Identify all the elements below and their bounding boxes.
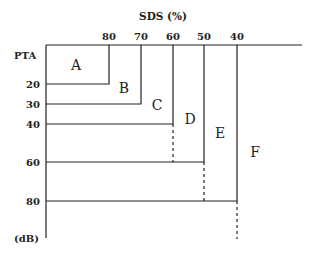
sds-tick-80: 80	[102, 31, 116, 42]
sds-tick-70: 70	[134, 31, 148, 42]
y-unit-label: (dB)	[14, 233, 39, 244]
region-label-a: A	[70, 57, 82, 73]
sds-tick-50: 50	[197, 31, 211, 42]
pta-tick-60: 60	[26, 157, 40, 168]
region-label-e: E	[215, 125, 225, 141]
x-axis-title: SDS (%)	[139, 10, 187, 22]
region-label-b: B	[119, 80, 129, 96]
region-label-d: D	[184, 111, 195, 127]
pta-sds-classification-diagram: SDS (%) PTA (dB) 80 70 60 50 40 20 30 40…	[0, 0, 312, 260]
sds-tick-60: 60	[166, 31, 180, 42]
region-label-f: F	[250, 144, 260, 160]
pta-tick-40: 40	[26, 119, 40, 130]
pta-tick-30: 30	[26, 99, 40, 110]
region-label-c: C	[152, 97, 163, 113]
pta-tick-20: 20	[26, 79, 40, 90]
sds-tick-40: 40	[230, 31, 244, 42]
y-axis-title: PTA	[14, 50, 36, 61]
pta-tick-80: 80	[26, 196, 40, 207]
